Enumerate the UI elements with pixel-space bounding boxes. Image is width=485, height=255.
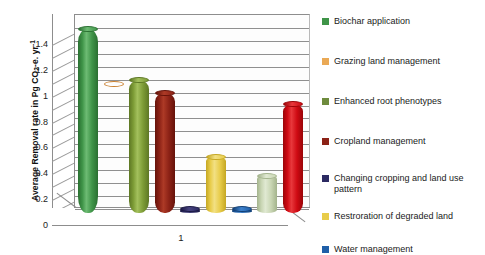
bar-4[interactable] — [180, 209, 200, 213]
legend-label: Biochar application — [334, 16, 410, 27]
legend-swatch-icon — [322, 175, 329, 182]
bar-8[interactable] — [283, 104, 303, 213]
bar-2[interactable] — [129, 80, 149, 213]
y-tick-0_4: 0.4 — [35, 168, 48, 178]
legend-item-1[interactable]: Grazing land management — [322, 56, 480, 67]
bar-7[interactable] — [257, 176, 277, 214]
legend-item-3[interactable]: Cropland management — [322, 136, 480, 147]
bar-cap-2 — [129, 77, 149, 83]
legend-item-6[interactable]: Water management — [322, 244, 480, 255]
legend-swatch-icon — [322, 246, 329, 253]
bar-cap-5 — [206, 154, 226, 160]
legend-label: Grazing land management — [334, 56, 440, 67]
chart-legend: Biochar applicationGrazing land manageme… — [322, 8, 484, 248]
legend-label: Restroration of degraded land — [334, 211, 453, 222]
bar-cap-8 — [283, 101, 303, 107]
legend-swatch-icon — [322, 138, 329, 145]
y-tick-1: 1 — [43, 91, 48, 101]
legend-label: Cropland management — [334, 136, 426, 147]
bar-cap-6 — [232, 206, 252, 212]
legend-swatch-icon — [322, 58, 329, 65]
x-axis-label: 1 — [52, 232, 310, 243]
y-tick-1_2: 1.2 — [35, 65, 48, 75]
legend-item-2[interactable]: Enhanced root phenotypes — [322, 96, 480, 107]
legend-label: Changing cropping and land use pattern — [334, 173, 480, 195]
bar-cap-7 — [257, 173, 277, 179]
bar-6[interactable] — [232, 209, 252, 213]
legend-swatch-icon — [322, 213, 329, 220]
y-tick-0: 0 — [43, 220, 48, 230]
y-tick-0_8: 0.8 — [35, 117, 48, 127]
legend-item-0[interactable]: Biochar application — [322, 16, 480, 27]
bar-0[interactable] — [78, 29, 98, 213]
bar-cap-0 — [78, 26, 98, 32]
y-tick-0_6: 0.6 — [35, 142, 48, 152]
bar-5[interactable] — [206, 157, 226, 213]
bar-cap-4 — [180, 206, 200, 212]
legend-label: Water management — [334, 244, 413, 255]
bar-cap-3 — [155, 90, 175, 96]
bar-group — [52, 14, 310, 226]
bar-1[interactable] — [104, 84, 124, 213]
legend-item-5[interactable]: Restroration of degraded land — [322, 211, 480, 222]
bar-cap-1 — [104, 81, 124, 87]
legend-swatch-icon — [322, 18, 329, 25]
bar-3[interactable] — [155, 93, 175, 213]
y-axis-tick-labels: 00.20.40.60.811.21.4 — [18, 0, 48, 253]
y-tick-1_4: 1.4 — [35, 39, 48, 49]
y-tick-0_2: 0.2 — [35, 194, 48, 204]
legend-swatch-icon — [322, 98, 329, 105]
plot-area — [52, 14, 310, 226]
legend-item-4[interactable]: Changing cropping and land use pattern — [322, 173, 480, 195]
legend-label: Enhanced root phenotypes — [334, 96, 442, 107]
